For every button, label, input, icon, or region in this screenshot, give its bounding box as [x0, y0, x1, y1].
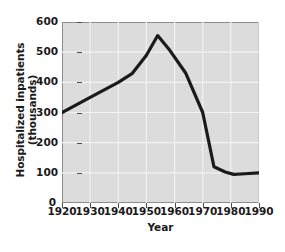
data-series-group	[62, 36, 259, 175]
y-tick-mark	[77, 22, 82, 23]
x-tick-mark	[90, 203, 91, 208]
x-tick-mark	[62, 203, 63, 208]
x-tick-mark	[259, 203, 260, 208]
x-tick-mark	[175, 203, 176, 208]
y-tick-mark	[77, 52, 82, 53]
x-tick-mark	[203, 203, 204, 208]
x-tick-mark	[146, 203, 147, 208]
x-tick-mark	[118, 203, 119, 208]
plot-area	[62, 22, 259, 203]
y-tick-mark	[77, 113, 82, 114]
x-tick-mark	[231, 203, 232, 208]
y-axis-title: Hospitalized inpatients (thousands)	[14, 12, 30, 208]
gridlines	[62, 22, 259, 203]
x-axis-title: Year	[62, 221, 259, 233]
y-tick-mark	[77, 143, 82, 144]
data-line	[62, 36, 259, 175]
y-tick-mark	[77, 173, 82, 174]
y-tick-mark	[77, 82, 82, 83]
chart-figure: 100200300400500600 Hospitalized inpatien…	[0, 0, 285, 252]
